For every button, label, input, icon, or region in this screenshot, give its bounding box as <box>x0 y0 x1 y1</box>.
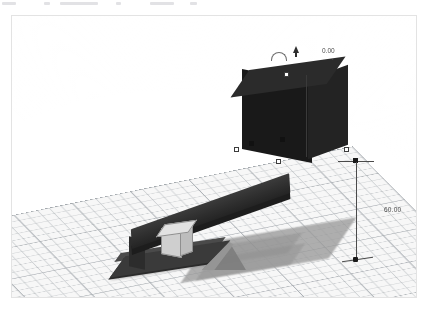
height-dimension-label: 60.00 <box>384 206 401 213</box>
angle-readout-ticks: · · <box>323 56 337 62</box>
height-dimension-bottom-anchor[interactable] <box>353 257 358 262</box>
elevated-cube[interactable] <box>236 63 352 163</box>
angle-readout-label: 0.00 <box>322 47 335 54</box>
cad-viewport-root: 0.00 · · — — 60.00 <box>0 0 431 310</box>
handle-top-center[interactable] <box>284 72 289 77</box>
rotation-arc-icon[interactable] <box>271 52 287 61</box>
elevated-cube-vertical-edge <box>306 75 307 157</box>
handle-face-left[interactable] <box>249 141 254 146</box>
height-cone-icon[interactable] <box>293 46 299 53</box>
top-ui-residue <box>0 0 431 10</box>
handle-face-center[interactable] <box>280 137 285 142</box>
base-dimension-label: — — <box>311 162 322 168</box>
height-cone-stem-icon <box>295 53 297 57</box>
handle-bottom-front[interactable] <box>276 159 281 164</box>
handle-bottom-left[interactable] <box>234 147 239 152</box>
scene-stage[interactable]: 0.00 · · — — 60.00 <box>12 16 416 297</box>
handle-bottom-right[interactable] <box>344 147 349 152</box>
height-dimension-line[interactable] <box>356 162 357 260</box>
viewport-frame: 0.00 · · — — 60.00 <box>11 15 417 298</box>
